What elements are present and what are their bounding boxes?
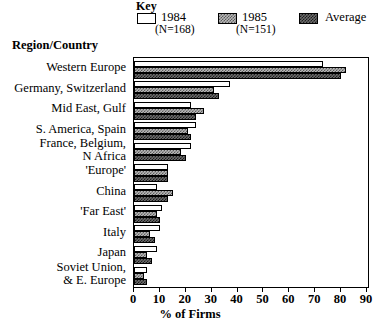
legend-swatch-1984 xyxy=(137,13,156,24)
bars-layer xyxy=(134,58,367,286)
x-axis-tick-labels: 0102030405060708090 xyxy=(0,292,380,308)
bar-chart: Key 1984 (N=168) 1985 (N=151) Average Re… xyxy=(0,0,380,323)
chart-legend: Key 1984 (N=168) 1985 (N=151) Average xyxy=(0,0,380,40)
bar-average xyxy=(134,258,152,264)
y-axis-category-label: S. America, Spain xyxy=(36,123,126,136)
y-axis-category-label: China xyxy=(96,185,126,198)
legend-label-average: Average xyxy=(325,10,366,25)
bar-average xyxy=(134,217,160,223)
x-axis-tick-label: 60 xyxy=(276,292,300,307)
bar-average xyxy=(134,155,186,161)
x-axis-tick-label: 10 xyxy=(147,292,171,307)
y-axis-category-label: 'Far East' xyxy=(80,205,126,218)
y-axis-category-label: Japan xyxy=(98,246,126,259)
bar-average xyxy=(134,114,196,120)
bar-average xyxy=(134,237,155,243)
y-axis-category-label: Italy xyxy=(103,226,126,239)
y-axis-category-label: Western Europe xyxy=(46,61,126,74)
bar-average xyxy=(134,176,168,182)
x-axis-tick-label: 80 xyxy=(328,292,352,307)
y-axis-category-label: Germany, Switzerland xyxy=(14,82,126,95)
y-axis-category-label: Mid East, Gulf xyxy=(51,102,126,115)
legend-swatch-average xyxy=(299,13,318,24)
x-axis-tick-label: 0 xyxy=(121,292,145,307)
y-axis-title: Region/Country xyxy=(12,38,98,53)
x-axis-tick-label: 90 xyxy=(354,292,378,307)
bar-average xyxy=(134,134,191,140)
legend-sub-1985: (N=151) xyxy=(236,23,276,35)
bar-average xyxy=(134,196,168,202)
legend-swatch-1985 xyxy=(218,13,237,24)
bar-average xyxy=(134,279,147,285)
bar-average xyxy=(134,93,219,99)
y-axis-category-labels: Western EuropeGermany, SwitzerlandMid Ea… xyxy=(0,57,130,287)
x-axis-tick-label: 40 xyxy=(225,292,249,307)
x-axis-title: % of Firms xyxy=(0,307,380,322)
legend-sub-1984: (N=168) xyxy=(155,23,195,35)
x-axis-tick-label: 50 xyxy=(250,292,274,307)
x-axis-tick-label: 30 xyxy=(199,292,223,307)
legend-title: Key xyxy=(136,0,157,14)
y-axis-category-label: Soviet Union, & E. Europe xyxy=(57,261,126,287)
x-axis-tick-label: 70 xyxy=(302,292,326,307)
bar-average xyxy=(134,73,341,79)
x-axis-tick-label: 20 xyxy=(173,292,197,307)
y-axis-category-label: 'Europe' xyxy=(85,164,126,177)
y-axis-category-label: France, Belgium, N Africa xyxy=(40,137,126,163)
